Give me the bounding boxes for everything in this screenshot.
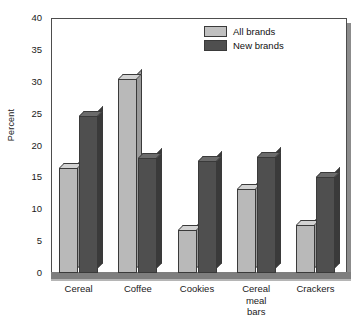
bar-side-3d — [98, 106, 103, 268]
legend-item-all-brands: All brands — [204, 26, 284, 37]
x-axis-label: Cerealmealbars — [225, 283, 287, 318]
bar-face — [198, 161, 217, 273]
y-tick-label: 20 — [20, 141, 42, 151]
bar-new-brands — [198, 161, 217, 273]
bar-face — [138, 158, 157, 273]
y-tick-label: 15 — [20, 173, 42, 183]
baseline-floor-shadow — [51, 279, 351, 281]
baseline-floor — [51, 272, 351, 279]
bar-group — [118, 18, 157, 273]
bar-new-brands — [138, 158, 157, 273]
bar-face — [257, 157, 276, 273]
bar-face — [79, 116, 98, 273]
bar-face — [59, 168, 78, 273]
y-axis-tick-labels: 0510152025303540 — [20, 0, 42, 330]
bar-side-3d — [157, 148, 162, 268]
bar-face — [316, 177, 335, 273]
legend-swatch-new-brands — [204, 40, 227, 51]
legend-label-all-brands: All brands — [233, 26, 275, 37]
x-axis-label-line: Cookies — [166, 283, 228, 295]
bar-chart-figure: Percent 0510152025303540 All brands New … — [0, 0, 359, 330]
legend-item-new-brands: New brands — [204, 40, 284, 51]
bar-all-brands — [237, 189, 256, 273]
chart-legend: All brands New brands — [204, 26, 284, 54]
bar-new-brands — [257, 157, 276, 273]
x-axis-label-line: Cereal — [225, 283, 287, 295]
y-tick-label: 35 — [20, 45, 42, 55]
bar-new-brands — [316, 177, 335, 273]
x-axis-label: Cookies — [166, 283, 228, 295]
bar-side-3d — [335, 167, 340, 268]
x-axis-label-line: Coffee — [107, 283, 169, 295]
bar-group — [178, 18, 217, 273]
bar-series-container — [51, 18, 347, 273]
bar-all-brands — [118, 79, 137, 273]
bar-group — [59, 18, 98, 273]
bar-group — [296, 18, 335, 273]
x-axis-label: Crackers — [284, 283, 346, 295]
y-tick-label: 25 — [20, 109, 42, 119]
x-axis-label-line: meal — [225, 295, 287, 307]
x-axis-category-labels: CerealCoffeeCookiesCerealmealbarsCracker… — [51, 283, 347, 329]
bar-face — [296, 225, 315, 273]
bar-side-3d — [276, 147, 281, 268]
y-tick-label: 0 — [20, 268, 42, 278]
x-axis-label-line: Crackers — [284, 283, 346, 295]
bar-face — [237, 189, 256, 273]
bar-face — [178, 230, 197, 273]
x-axis-label: Cereal — [48, 283, 110, 295]
y-tick-label: 5 — [20, 236, 42, 246]
bar-face — [118, 79, 137, 273]
y-tick-label: 30 — [20, 77, 42, 87]
legend-swatch-all-brands — [204, 26, 227, 37]
bar-side-3d — [217, 151, 222, 268]
bar-all-brands — [296, 225, 315, 273]
y-tick-label: 40 — [20, 13, 42, 23]
legend-label-new-brands: New brands — [233, 40, 284, 51]
x-axis-label-line: bars — [225, 306, 287, 318]
x-axis-label: Coffee — [107, 283, 169, 295]
bar-new-brands — [79, 116, 98, 273]
y-axis-title: Percent — [6, 90, 16, 160]
bar-all-brands — [59, 168, 78, 273]
x-axis-label-line: Cereal — [48, 283, 110, 295]
bar-group — [237, 18, 276, 273]
bar-all-brands — [178, 230, 197, 273]
y-tick-label: 10 — [20, 205, 42, 215]
